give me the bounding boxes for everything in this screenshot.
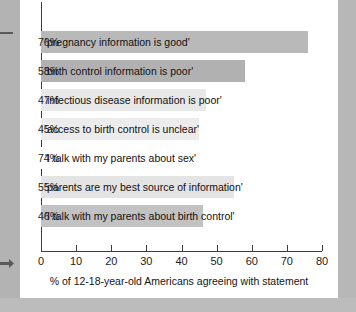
bar-row[interactable]: 'I talk with my parents about birth cont… [41, 205, 322, 227]
bar-chart: 01020304050607080 'pregnancy information… [20, 0, 338, 298]
x-axis-tick-label: 70 [281, 255, 293, 267]
x-axis-tick [287, 245, 288, 251]
x-axis-tick [252, 245, 253, 251]
x-axis-line [41, 251, 322, 252]
bar-row[interactable]: 'parents are my best source of informati… [41, 176, 322, 198]
x-axis-tick [146, 245, 147, 251]
bar-row[interactable]: 'birth control information is poor'58% [41, 60, 322, 82]
page-edge-right [338, 0, 356, 312]
x-axis-tick [322, 245, 323, 251]
bar-row[interactable]: 'I talk with my parents about sex'74% [41, 147, 322, 169]
x-axis-tick-label: 50 [211, 255, 223, 267]
bar-row[interactable]: 'access to birth control is unclear'45% [41, 118, 322, 140]
x-axis-tick-label: 30 [140, 255, 152, 267]
page-edge-bottom [0, 298, 356, 312]
bar-value-label: 47% [19, 89, 59, 111]
bar-value-label: 76% [19, 31, 59, 53]
bar-category-label: 'I talk with my parents about birth cont… [45, 205, 235, 227]
x-axis-tick-label: 10 [70, 255, 82, 267]
bar-category-label: 'pregnancy information is good' [45, 31, 190, 53]
x-axis-tick-label: 60 [246, 255, 258, 267]
bar-row[interactable]: 'infectious disease information is poor'… [41, 89, 322, 111]
bar-category-label: 'I talk with my parents about sex' [45, 147, 196, 169]
x-axis-tick-label: 40 [175, 255, 187, 267]
bar-category-label: 'infectious disease information is poor' [45, 89, 222, 111]
x-axis-tick-label: 20 [105, 255, 117, 267]
x-axis-tick [182, 245, 183, 251]
bar-value-label: 45% [19, 118, 59, 140]
x-axis-tick [76, 245, 77, 251]
x-axis-tick [41, 245, 42, 251]
bar-category-label: 'parents are my best source of informati… [45, 176, 243, 198]
screenshot-root: 01020304050607080 'pregnancy information… [0, 0, 356, 312]
bar-value-label: 46% [19, 205, 59, 227]
x-axis-tick [217, 245, 218, 251]
x-axis-tick-label: 80 [316, 255, 328, 267]
scan-artifact-mark [0, 32, 13, 34]
bar-category-label: 'birth control information is poor' [45, 60, 193, 82]
x-axis-tick-label: 0 [38, 255, 44, 267]
x-axis-tick [111, 245, 112, 251]
bar-value-label: 55% [19, 176, 59, 198]
bar-value-label: 58% [19, 60, 59, 82]
x-axis-title: % of 12-18-year-old Americans agreeing w… [20, 275, 338, 287]
bar-row[interactable]: 'pregnancy information is good'76% [41, 31, 322, 53]
bar-category-label: 'access to birth control is unclear' [45, 118, 199, 140]
bar-value-label: 74% [19, 147, 59, 169]
figure-page: 01020304050607080 'pregnancy information… [20, 0, 338, 298]
